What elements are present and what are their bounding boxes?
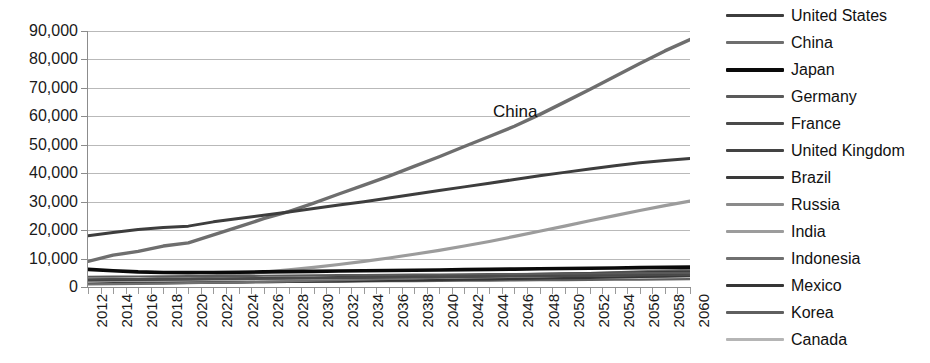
x-axis-tick-label: 2042 [470,294,485,327]
x-axis-tick-label: 2036 [395,294,410,327]
x-axis-tick [577,288,578,294]
x-axis-tick [389,288,390,294]
legend-label: Indonesia [791,250,860,267]
x-axis-tick-label: 2014 [119,294,134,327]
legend-label: United Kingdom [791,142,905,159]
x-axis-tick [301,288,302,294]
x-axis-tick-label: 2058 [671,294,686,327]
x-axis-tick [326,288,327,294]
legend-color-swatch [726,14,784,17]
y-axis-tick [81,202,87,203]
x-axis-tick [627,288,628,294]
y-axis-tick [81,116,87,117]
legend-color-swatch [726,149,784,152]
x-axis-tick [364,288,365,294]
legend-item[interactable]: United States [726,2,930,29]
legend-color-swatch [726,284,784,287]
legend-label: Russia [791,196,840,213]
x-axis-tick-label: 2046 [520,294,535,327]
x-axis-tick [314,288,315,294]
x-axis-tick [690,288,691,294]
x-axis-tick [251,288,252,294]
x-axis-tick [502,288,503,294]
legend-label: China [791,34,833,51]
x-axis-tick [590,288,591,294]
x-axis-tick-label: 2032 [345,294,360,327]
x-axis-tick-label: 2034 [370,294,385,327]
x-axis-tick-label: 2038 [420,294,435,327]
x-axis-tick [113,288,114,294]
x-axis-tick [464,288,465,294]
x-axis-tick [439,288,440,294]
x-axis-tick [602,288,603,294]
y-axis-tick [81,259,87,260]
chart-container: 90,00080,00070,00060,00050,00040,00030,0… [0,0,930,363]
x-axis-tick [163,288,164,294]
x-axis-tick [88,288,89,294]
legend-item[interactable]: Canada [726,326,930,353]
y-axis-tick [81,31,87,32]
x-axis-tick-label: 2026 [270,294,285,327]
x-axis-tick-label: 2022 [219,294,234,327]
legend-item[interactable]: United Kingdom [726,137,930,164]
legend-label: Korea [791,304,834,321]
legend-item[interactable]: Indonesia [726,245,930,272]
legend-label: India [791,223,826,240]
legend-color-swatch [726,338,784,341]
x-axis-tick-label: 2052 [596,294,611,327]
x-axis-tick [226,288,227,294]
x-axis-tick [101,288,102,294]
legend-item[interactable]: Brazil [726,164,930,191]
legend-item[interactable]: Russia [726,191,930,218]
x-axis-tick-label: 2056 [646,294,661,327]
x-axis-tick-label: 2048 [546,294,561,327]
x-axis-tick [615,288,616,294]
x-axis-tick [677,288,678,294]
x-axis-tick [640,288,641,294]
x-axis-tick-label: 2018 [169,294,184,327]
x-axis-tick [351,288,352,294]
legend-label: Germany [791,88,857,105]
x-axis-tick-label: 2054 [621,294,636,327]
x-axis-tick [489,288,490,294]
x-axis-tick [126,288,127,294]
legend-color-swatch [726,176,784,179]
x-axis-tick-label: 2050 [571,294,586,327]
x-axis-tick [201,288,202,294]
legend-item[interactable]: Mexico [726,272,930,299]
y-axis-tick [81,59,87,60]
x-axis-tick [151,288,152,294]
x-axis-tick-label: 2024 [245,294,260,327]
x-axis-tick [138,288,139,294]
x-axis-tick [264,288,265,294]
x-axis-tick [514,288,515,294]
x-axis-tick [652,288,653,294]
x-axis-tick-label: 2028 [295,294,310,327]
legend-item[interactable]: Korea [726,299,930,326]
legend-item[interactable]: France [726,110,930,137]
x-axis-tick [376,288,377,294]
x-axis-tick-label: 2060 [696,294,711,327]
legend-color-swatch [726,203,784,206]
x-axis-tick [565,288,566,294]
x-axis-tick-label: 2044 [495,294,510,327]
legend-label: Canada [791,331,847,348]
y-axis-tick [81,230,87,231]
x-axis-tick [213,288,214,294]
legend-item[interactable]: Germany [726,83,930,110]
legend-item[interactable]: China [726,29,930,56]
x-axis-tick [276,288,277,294]
y-axis-tick [81,145,87,146]
legend-color-swatch [726,257,784,260]
x-axis-tick [427,288,428,294]
legend-item[interactable]: India [726,218,930,245]
x-axis-tick [452,288,453,294]
y-axis-tick [81,173,87,174]
x-axis-tick-label: 2012 [94,294,109,327]
y-axis-tick [81,88,87,89]
x-axis-tick [665,288,666,294]
legend-item[interactable]: Japan [726,56,930,83]
legend-label: United States [791,7,887,24]
legend-label: Japan [791,61,835,78]
china-series-annotation: China [493,103,537,121]
